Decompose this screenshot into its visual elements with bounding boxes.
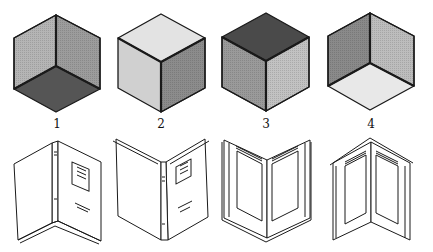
cube-4 (328, 13, 414, 110)
book-1 (14, 141, 101, 244)
book-3 (222, 140, 311, 242)
book-4 (330, 138, 413, 240)
cube-label-3: 3 (256, 117, 276, 131)
cube-label-1: 1 (47, 117, 67, 131)
cube-label-4: 4 (361, 117, 381, 131)
book-2 (113, 139, 209, 240)
cube-2 (118, 14, 205, 112)
cube-1 (14, 15, 100, 112)
cube-label-2: 2 (151, 117, 171, 131)
cube-3 (222, 13, 309, 111)
